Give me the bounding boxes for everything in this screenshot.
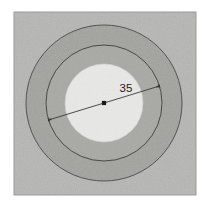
figure-root: 35 [0,0,208,209]
circle-diagram-svg: 35 [0,0,208,209]
diameter-label: 35 [120,82,133,94]
center-point-marker [102,101,106,105]
